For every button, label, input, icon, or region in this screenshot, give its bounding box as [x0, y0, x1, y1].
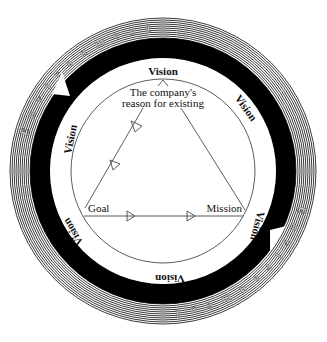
- vision-environment-diagram: Environment Environment Vision Vision Vi…: [0, 0, 327, 342]
- vision-label-top: Vision: [148, 65, 178, 77]
- goal-label: Goal: [88, 202, 109, 214]
- mission-label: Mission: [207, 202, 243, 214]
- vision-label-bottom: Vision: [155, 273, 185, 285]
- apex-label-line2: reason for existing: [122, 97, 204, 109]
